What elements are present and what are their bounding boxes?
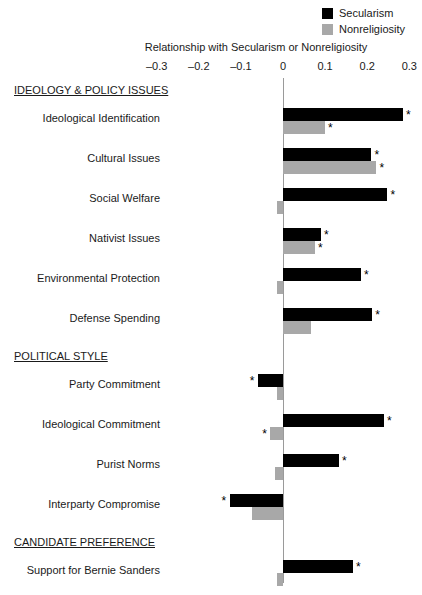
significance-star: *	[375, 309, 380, 321]
x-tick-label: –0.2	[188, 60, 209, 73]
significance-star: *	[318, 242, 323, 254]
legend-label-secularism: Secularism	[339, 8, 393, 19]
significance-star: *	[262, 428, 267, 440]
bar-nonreligiosity	[275, 467, 283, 480]
significance-star: *	[406, 109, 411, 121]
legend-item-secularism: Secularism	[322, 6, 418, 21]
significance-star: *	[364, 269, 369, 281]
x-tick-label: –0.3	[146, 60, 167, 73]
bar-secularism	[283, 268, 361, 281]
category-label: Social Welfare	[89, 192, 160, 205]
section-header: CANDIDATE PREFERENCE	[14, 536, 155, 549]
section-header: IDEOLOGY & POLICY ISSUES	[14, 84, 168, 97]
category-label: Support for Bernie Sanders	[27, 564, 160, 577]
x-axis-tick-labels: –0.3–0.2–0.100.10.20.3	[0, 60, 422, 75]
bar-secularism	[283, 148, 371, 161]
category-label: Ideological Identification	[43, 112, 160, 125]
significance-star: *	[250, 375, 255, 387]
bar-secularism	[283, 228, 321, 241]
bar-nonreligiosity	[277, 201, 283, 214]
bar-secularism	[283, 188, 387, 201]
bar-nonreligiosity	[252, 507, 283, 520]
significance-star: *	[356, 561, 361, 573]
significance-star: *	[379, 162, 384, 174]
significance-star: *	[328, 122, 333, 134]
bar-nonreligiosity	[277, 281, 283, 294]
bar-nonreligiosity	[283, 121, 325, 134]
category-label: Interparty Compromise	[48, 498, 160, 511]
x-tick-label: –0.1	[230, 60, 251, 73]
bar-nonreligiosity	[277, 387, 283, 400]
significance-star: *	[374, 149, 379, 161]
significance-star: *	[324, 229, 329, 241]
plot-area: IDEOLOGY & POLICY ISSUESIdeological Iden…	[0, 78, 422, 590]
bar-secularism	[283, 308, 372, 321]
category-label: Cultural Issues	[87, 152, 160, 165]
legend-item-nonreligiosity: Nonreligiosity	[322, 22, 418, 37]
bar-nonreligiosity	[283, 161, 376, 174]
x-tick-label: 0	[280, 60, 286, 73]
x-axis-title: Relationship with Secularism or Nonrelig…	[0, 41, 422, 53]
bar-secularism	[283, 454, 339, 467]
legend-swatch-secularism	[322, 8, 333, 19]
legend-swatch-nonreligiosity	[322, 24, 333, 35]
bar-secularism	[283, 414, 384, 427]
category-label: Purist Norms	[96, 458, 160, 471]
category-label: Nativist Issues	[89, 232, 160, 245]
bar-secularism	[283, 108, 403, 121]
bar-nonreligiosity	[283, 321, 311, 334]
x-tick-label: 0.1	[317, 60, 332, 73]
legend-label-nonreligiosity: Nonreligiosity	[339, 24, 405, 35]
category-label: Ideological Commitment	[42, 418, 160, 431]
bar-secularism	[230, 494, 283, 507]
significance-star: *	[222, 495, 227, 507]
category-label: Party Commitment	[69, 378, 160, 391]
significance-star: *	[387, 415, 392, 427]
x-tick-label: 0.2	[360, 60, 375, 73]
bar-nonreligiosity	[277, 573, 283, 586]
bar-secularism	[283, 560, 353, 573]
chart-legend: Secularism Nonreligiosity	[322, 6, 418, 38]
category-label: Defense Spending	[69, 312, 160, 325]
x-tick-label: 0.3	[402, 60, 417, 73]
bar-secularism	[258, 374, 283, 387]
section-header: POLITICAL STYLE	[14, 350, 108, 363]
significance-star: *	[390, 189, 395, 201]
bar-nonreligiosity	[283, 241, 315, 254]
category-label: Environmental Protection	[37, 272, 160, 285]
bar-nonreligiosity	[270, 427, 283, 440]
significance-star: *	[342, 455, 347, 467]
